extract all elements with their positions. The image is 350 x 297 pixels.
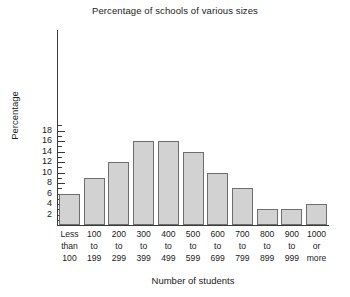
x-category-label-line: than (57, 240, 82, 252)
x-category-label-line: to (131, 240, 156, 252)
x-category-label-line: or (304, 240, 329, 252)
y-tick-label: 16 (26, 135, 52, 145)
x-category-label-line: 899 (255, 252, 280, 264)
x-category-label-line: to (156, 240, 181, 252)
x-axis-line (57, 225, 329, 226)
x-category-label-line: 500 (181, 228, 206, 240)
bar (59, 194, 80, 226)
x-category-label-line: to (205, 240, 230, 252)
x-category-label-line: 200 (106, 228, 131, 240)
x-axis-title: Number of students (57, 275, 329, 286)
y-tick-label: 10 (26, 167, 52, 177)
y-axis-title: Percentage (9, 76, 20, 156)
bar (183, 152, 204, 226)
x-category-label-line: 700 (230, 228, 255, 240)
x-category-label-line: 600 (205, 228, 230, 240)
bar (158, 141, 179, 225)
x-category-label: 600to699 (205, 228, 230, 264)
bar (306, 204, 327, 225)
x-category-label-line: to (255, 240, 280, 252)
bar (257, 209, 278, 225)
x-category-label-line: 599 (181, 252, 206, 264)
x-category-label-line: 900 (279, 228, 304, 240)
bar-series (57, 30, 329, 225)
x-category-label: Lessthan100 (57, 228, 82, 264)
y-tick-label: 14 (26, 146, 52, 156)
bar (84, 178, 105, 225)
x-category-label-line: 399 (131, 252, 156, 264)
x-category-label-line: 699 (205, 252, 230, 264)
x-category-label: 900to999 (279, 228, 304, 264)
x-category-label-line: to (82, 240, 107, 252)
x-category-label-line: to (279, 240, 304, 252)
x-category-label-line: 1000 (304, 228, 329, 240)
x-category-label-line: 999 (279, 252, 304, 264)
bar (232, 188, 253, 225)
x-category-label: 1000ormore (304, 228, 329, 264)
bar-chart: Percentage of schools of various sizes 2… (0, 0, 350, 297)
y-tick-label: 2 (26, 209, 52, 219)
chart-title: Percentage of schools of various sizes (0, 5, 350, 16)
bar (133, 141, 154, 225)
x-category-label-line: 299 (106, 252, 131, 264)
x-category-label: 200to299 (106, 228, 131, 264)
x-category-label-line: 199 (82, 252, 107, 264)
x-axis-category-labels: Lessthan100100to199200to299300to399400to… (57, 228, 329, 274)
x-category-label-line: 100 (82, 228, 107, 240)
bar (108, 162, 129, 225)
y-tick-label: 8 (26, 177, 52, 187)
x-category-label-line: to (106, 240, 131, 252)
x-category-label-line: to (230, 240, 255, 252)
x-category-label-line: 799 (230, 252, 255, 264)
bar (207, 173, 228, 226)
x-category-label: 800to899 (255, 228, 280, 264)
y-tick-label: 18 (26, 125, 52, 135)
x-category-label-line: to (181, 240, 206, 252)
x-category-label-line: 499 (156, 252, 181, 264)
y-tick-label: 4 (26, 198, 52, 208)
x-category-label-line: 800 (255, 228, 280, 240)
x-category-label-line: 100 (57, 252, 82, 264)
x-category-label: 400to499 (156, 228, 181, 264)
x-category-label-line: 300 (131, 228, 156, 240)
bar (281, 209, 302, 225)
x-category-label-line: Less (57, 228, 82, 240)
x-category-label-line: more (304, 252, 329, 264)
x-category-label-line: 400 (156, 228, 181, 240)
x-category-label: 100to199 (82, 228, 107, 264)
x-category-label: 700to799 (230, 228, 255, 264)
y-tick-label: 6 (26, 188, 52, 198)
x-category-label: 500to599 (181, 228, 206, 264)
x-category-label: 300to399 (131, 228, 156, 264)
y-tick-label: 12 (26, 156, 52, 166)
